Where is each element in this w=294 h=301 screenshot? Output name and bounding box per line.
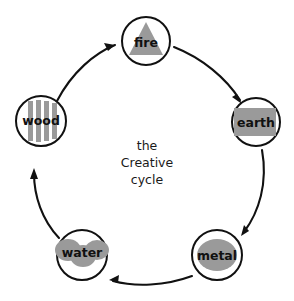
arrow-fire-to-earth-path [174,47,240,100]
center-caption-line-3: cycle [131,172,164,187]
arrow-earth-to-metal [241,150,264,236]
arrow-wood-to-fire [57,43,115,101]
node-metal-label: metal [197,248,237,263]
node-fire[interactable]: fire [122,17,170,65]
node-earth[interactable]: earth [232,98,280,146]
center-caption: the Creative cycle [121,138,174,187]
arrow-metal-to-water-path [113,276,192,285]
node-water-label: water [62,245,103,260]
node-metal[interactable]: metal [192,230,242,280]
node-fire-label: fire [134,35,158,50]
creative-cycle-diagram: fire earth metal water [0,0,294,301]
node-wood-label: wood [22,113,60,128]
arrow-water-to-wood-head [30,168,38,179]
node-water[interactable]: water [55,230,109,280]
arrow-wood-to-fire-path [57,45,115,101]
center-caption-line-1: the [137,138,158,153]
arrow-water-to-wood-path [34,173,59,238]
cycle-canvas: fire earth metal water [0,0,294,301]
center-caption-line-2: Creative [121,155,174,170]
arrow-earth-to-metal-path [244,150,264,232]
arrow-metal-to-water [109,275,192,285]
arrow-water-to-wood [30,168,59,238]
arrow-fire-to-earth [174,47,242,104]
node-wood[interactable]: wood [16,96,66,146]
node-earth-label: earth [237,115,275,130]
